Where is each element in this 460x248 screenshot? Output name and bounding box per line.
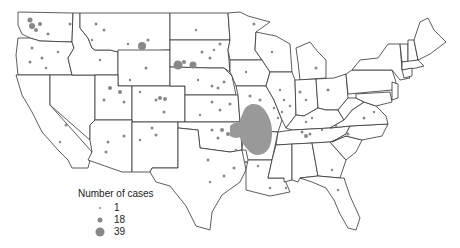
state-montana bbox=[80, 13, 170, 52]
state-north-dakota bbox=[170, 13, 230, 40]
state-florida bbox=[300, 176, 360, 230]
state-arizona bbox=[88, 120, 132, 172]
state-kansas bbox=[185, 95, 240, 122]
circle-large-icon bbox=[96, 228, 105, 237]
state-washington bbox=[18, 12, 73, 42]
legend-label: 18 bbox=[114, 214, 125, 226]
state-connecticut bbox=[402, 68, 412, 78]
legend-item-39: 39 bbox=[78, 226, 168, 238]
state-massachusetts bbox=[402, 60, 424, 70]
us-map bbox=[0, 0, 460, 248]
state-wyoming bbox=[118, 50, 170, 86]
state-maine bbox=[414, 18, 446, 60]
state-oregon bbox=[16, 38, 74, 75]
state-iowa bbox=[230, 60, 270, 86]
state-new-jersey bbox=[392, 82, 398, 100]
legend-title: Number of cases bbox=[78, 188, 168, 199]
legend: Number of cases 1 18 39 bbox=[78, 188, 168, 238]
state-pennsylvania bbox=[346, 70, 396, 94]
state-new-mexico bbox=[132, 122, 178, 172]
legend-label: 39 bbox=[114, 226, 125, 238]
legend-item-18: 18 bbox=[78, 214, 168, 226]
circle-medium-icon bbox=[98, 218, 103, 223]
state-michigan bbox=[296, 42, 326, 80]
legend-label: 1 bbox=[114, 202, 120, 214]
circle-small-icon bbox=[99, 207, 101, 209]
legend-item-1: 1 bbox=[78, 202, 168, 214]
